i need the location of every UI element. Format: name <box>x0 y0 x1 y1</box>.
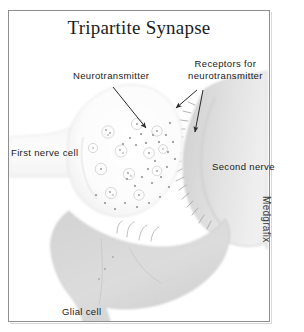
label-first-nerve-cell: First nerve cell <box>11 147 78 159</box>
label-receptors: Receptors for neurotransmitter <box>188 58 263 81</box>
glial-cell-body <box>51 211 230 321</box>
label-receptors-line2: neurotransmitter <box>188 70 263 82</box>
label-receptors-line1: Receptors for <box>188 58 263 70</box>
label-glial-cell: Glial cell <box>62 306 101 318</box>
presynaptic-terminal-bulb <box>67 85 182 217</box>
postsynaptic-cell-group <box>173 71 267 249</box>
page-title: Tripartite Synapse <box>8 17 270 39</box>
label-second-nerve: Second nerve <box>212 161 275 173</box>
glial-processes <box>117 221 159 241</box>
credit-watermark: Medgrafix <box>261 196 272 243</box>
glial-cell-group <box>51 211 230 321</box>
label-neurotransmitter: Neurotransmitter <box>73 70 149 82</box>
figure-root: Tripartite Synapse Neurotransmitter Rece… <box>0 0 304 332</box>
arrow-receptors-upper <box>176 90 197 108</box>
